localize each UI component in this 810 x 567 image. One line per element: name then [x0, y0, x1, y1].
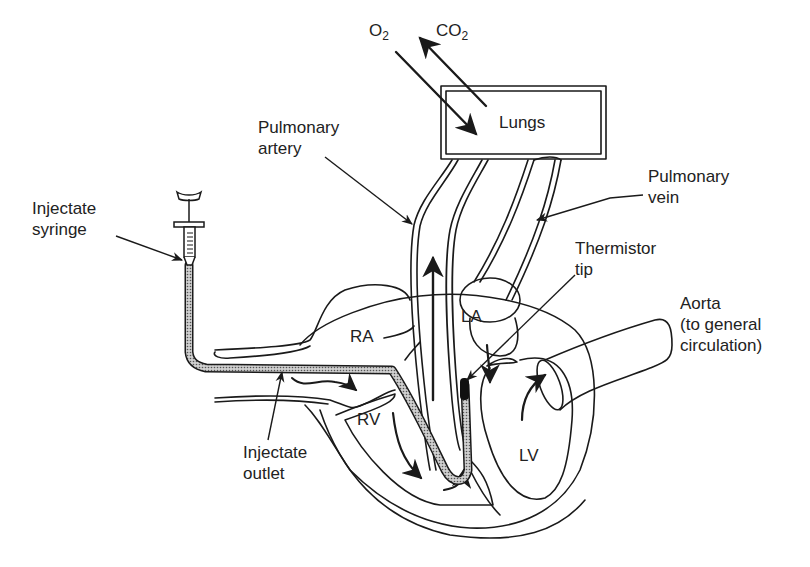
thermistor-tip	[460, 378, 469, 400]
right-atrium	[215, 285, 410, 350]
aorta	[545, 319, 672, 410]
chamber-ra-label: RA	[350, 327, 374, 347]
injectate-flow-arrow	[292, 378, 356, 390]
thermistor-pointer	[467, 275, 575, 380]
pulmonary-vein-2	[506, 160, 555, 300]
syringe-pointer	[116, 236, 182, 260]
chamber-rv-label: RV	[357, 410, 380, 430]
pulmonary-vein-label: Pulmonaryvein	[648, 166, 729, 208]
injectate-syringe-label: Injectatesyringe	[32, 198, 96, 240]
co2-label: CO2	[436, 20, 468, 47]
la-to-lv-arrow	[487, 345, 490, 382]
thermistor-tip-label: Thermistortip	[575, 238, 656, 280]
cardiac-thermodilution-diagram	[0, 0, 810, 567]
injectate-outlet-label: Injectateoutlet	[243, 442, 307, 484]
o2-label: O2	[369, 20, 389, 47]
chamber-lv-label: LV	[519, 446, 539, 466]
pulmonary-artery-pointer	[325, 157, 412, 224]
aorta-label: Aorta(to generalcirculation)	[680, 293, 762, 356]
co2-outflow-arrow	[420, 38, 486, 106]
injectate-outlet-pointer	[268, 372, 282, 440]
injectate-syringe	[174, 192, 204, 265]
o2-inflow-arrow	[396, 52, 476, 134]
chamber-la-label: LA	[461, 307, 482, 327]
pulmonary-artery-label: Pulmonaryartery	[258, 117, 339, 159]
lv-to-aorta-arrow	[522, 375, 545, 420]
pulmonary-vein-1	[474, 160, 528, 282]
lungs-label: Lungs	[499, 112, 545, 133]
